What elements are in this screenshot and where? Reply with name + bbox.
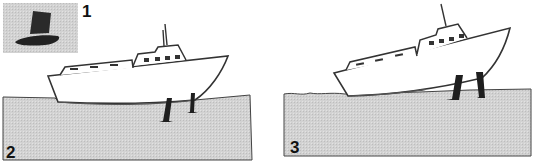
illustration <box>0 0 533 165</box>
hat-crown-icon <box>30 11 51 34</box>
panel-label-1: 1 <box>82 3 91 20</box>
panel-label-3: 3 <box>290 139 299 156</box>
panel-3 <box>284 4 531 156</box>
diagram-figure: 1 2 3 <box>0 0 533 165</box>
panel-label-2: 2 <box>6 144 15 161</box>
panel-1-hat <box>3 3 78 53</box>
